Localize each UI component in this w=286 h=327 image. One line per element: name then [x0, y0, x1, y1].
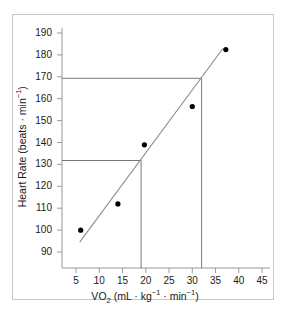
- y-tick-marks: [57, 33, 62, 252]
- reference-line-lower: [62, 161, 141, 269]
- x-tick-label: 15: [113, 275, 133, 286]
- x-tick-label: 35: [206, 275, 226, 286]
- data-point: [190, 104, 195, 109]
- y-tick-label: 140: [26, 137, 52, 148]
- x-axis-title: VO2 (mL · kg−1 · min−1): [30, 288, 260, 305]
- vo2-dot-symbol: V: [91, 290, 98, 302]
- x-axis-title-units-open: (mL · kg: [111, 290, 152, 302]
- x-axis-title-mid: · min: [160, 290, 186, 302]
- y-axis-title: Heart Rate (beats · min−1): [14, 62, 28, 232]
- y-tick-label: 110: [26, 202, 52, 213]
- y-tick-label: 100: [26, 224, 52, 235]
- x-tick-label: 5: [66, 275, 86, 286]
- x-axis-title-o: O: [98, 290, 106, 302]
- data-points: [78, 47, 228, 233]
- y-tick-label: 190: [26, 27, 52, 38]
- y-tick-label: 180: [26, 49, 52, 60]
- data-point: [223, 47, 228, 52]
- chart-figure: 190 180 170 160 150 140 130 120 110 100 …: [0, 0, 286, 327]
- y-tick-label: 120: [26, 180, 52, 191]
- y-tick-label: 170: [26, 71, 52, 82]
- x-tick-label: 25: [159, 275, 179, 286]
- data-point: [142, 142, 147, 147]
- y-axis-title-close: ): [16, 86, 28, 90]
- y-tick-label: 130: [26, 158, 52, 169]
- x-tick-label: 40: [229, 275, 249, 286]
- x-tick-label: 30: [182, 275, 202, 286]
- x-tick-marks: [76, 268, 262, 273]
- y-axis-title-main: Heart Rate (beats · min: [16, 98, 28, 207]
- data-point: [78, 228, 83, 233]
- reference-line-upper: [62, 78, 202, 268]
- y-tick-label: 150: [26, 115, 52, 126]
- x-axis-title-close: ): [195, 290, 199, 302]
- y-axis-title-exponent: −1: [14, 90, 23, 99]
- x-axis-title-exp2: −1: [187, 288, 196, 297]
- x-tick-label: 45: [252, 275, 272, 286]
- data-point: [115, 201, 120, 206]
- x-tick-label: 20: [136, 275, 156, 286]
- y-tick-label: 90: [26, 246, 52, 257]
- y-tick-label: 160: [26, 93, 52, 104]
